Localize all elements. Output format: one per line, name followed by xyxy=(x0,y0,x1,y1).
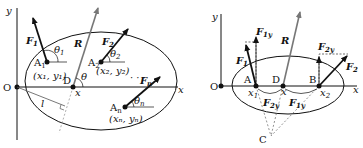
moment-arm-label: l xyxy=(41,98,44,109)
point-a2-coord: (x₂, y₂) xyxy=(96,65,130,76)
y-axis-label-right: y xyxy=(211,11,218,22)
point-an xyxy=(123,105,128,110)
point-d-label-right: D xyxy=(272,74,280,85)
force-f2-label-right: F2 xyxy=(345,61,358,74)
point-a1-label: A1 xyxy=(33,57,46,70)
brace-label-f2y: F2y xyxy=(262,97,280,110)
right-diagram: y x O C F2y F1y F1y F1 R F2y F2 xyxy=(210,11,359,145)
force-f1-label: F1 xyxy=(25,35,38,48)
point-a-right xyxy=(254,84,259,89)
point-b-label-right: B xyxy=(309,74,316,85)
point-d-coord-right: x xyxy=(281,86,287,97)
y-axis-label: y xyxy=(5,5,12,16)
diagram-canvas: y x O l R D x θ θ1 F1 A1 (x₁, y₁) xyxy=(0,0,363,148)
point-d-coord: x xyxy=(75,87,81,98)
resultant-vector-right xyxy=(283,12,300,86)
origin-point-right xyxy=(219,84,224,89)
origin-label-right: O xyxy=(210,81,218,92)
point-a-coord-right: x1 xyxy=(248,87,258,100)
theta2-label: θ2 xyxy=(110,48,121,61)
force-f1-label-right: F1 xyxy=(235,55,248,68)
point-an-coord: (xₙ, yₙ) xyxy=(109,113,143,124)
force-fn-label: Fn xyxy=(139,75,152,88)
point-c-label: C xyxy=(259,134,267,145)
f2y-label: F2y xyxy=(317,41,335,54)
resultant-label-right: R xyxy=(280,35,289,46)
brace-label-f1y: F1y xyxy=(288,97,306,110)
point-a1-coord: (x₁, y₁) xyxy=(33,70,67,81)
point-b-coord-right: x2 xyxy=(320,87,331,100)
thetan-label: θn xyxy=(134,95,145,108)
point-a-label-right: A xyxy=(243,74,252,85)
force-f2-vector-right xyxy=(319,56,347,86)
f1y-label: F1y xyxy=(255,26,273,39)
origin-label: O xyxy=(3,82,11,93)
x-axis-label: x xyxy=(178,84,184,95)
force-f2-label: F2 xyxy=(101,36,114,49)
theta1-label: θ1 xyxy=(54,44,65,57)
x-axis-label-right: x xyxy=(353,84,359,95)
theta-label: θ xyxy=(81,71,87,82)
resultant-label: R xyxy=(73,38,82,49)
left-diagram: y x O l R D x θ θ1 F1 A1 (x₁, y₁) xyxy=(3,5,184,140)
brace-a-d xyxy=(258,89,282,94)
